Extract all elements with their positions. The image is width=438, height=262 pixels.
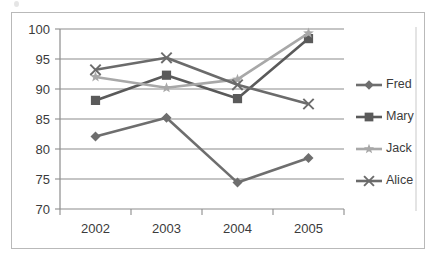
diamond-marker	[91, 131, 101, 141]
series-fred	[91, 113, 314, 188]
gridlines-group	[60, 29, 344, 209]
square-marker	[162, 71, 171, 80]
y-tick-label: 100	[28, 22, 50, 37]
series-line	[96, 118, 309, 183]
y-axis-tick-marks	[55, 29, 60, 209]
y-tick-label: 75	[36, 172, 50, 187]
square-marker	[365, 113, 374, 122]
y-axis-tick-labels: 707580859095100	[28, 22, 50, 217]
legend-label: Jack	[386, 141, 412, 155]
chart-frame: 707580859095100 2002200320042005 FredMar…	[11, 12, 425, 249]
star-marker	[161, 82, 172, 92]
diamond-marker	[364, 80, 374, 90]
y-tick-label: 80	[36, 142, 50, 157]
x-tick-label: 2002	[81, 221, 110, 236]
legend-entry-mary[interactable]: Mary	[356, 109, 415, 123]
x-axis-tick-marks	[60, 209, 344, 215]
y-tick-label: 90	[36, 82, 50, 97]
x-tick-label: 2004	[223, 221, 252, 236]
scan-artifact-dot	[14, 1, 19, 7]
y-tick-label: 95	[36, 52, 50, 67]
diamond-marker	[304, 153, 314, 163]
star-marker	[364, 144, 374, 154]
x-axis-tick-labels: 2002200320042005	[81, 221, 323, 236]
chart-legend: FredMaryJackAlice	[356, 77, 415, 187]
legend-entry-alice[interactable]: Alice	[356, 173, 413, 187]
square-marker	[91, 96, 100, 105]
series-line	[96, 39, 309, 101]
square-marker	[233, 94, 242, 103]
series-jack	[90, 28, 314, 93]
series-line	[96, 33, 309, 88]
x-tick-label: 2005	[294, 221, 323, 236]
x-tick-label: 2003	[152, 221, 181, 236]
line-chart-figure: 707580859095100 2002200320042005 FredMar…	[0, 0, 438, 262]
legend-entry-jack[interactable]: Jack	[356, 141, 412, 155]
y-tick-label: 85	[36, 112, 50, 127]
data-series-layer	[90, 28, 314, 188]
plot-area: 707580859095100 2002200320042005 FredMar…	[12, 13, 424, 248]
legend-label: Alice	[386, 173, 413, 187]
legend-label: Fred	[386, 77, 412, 91]
series-mary	[91, 34, 313, 105]
y-tick-label: 70	[36, 202, 50, 217]
legend-label: Mary	[386, 109, 415, 123]
legend-entry-fred[interactable]: Fred	[356, 77, 412, 91]
